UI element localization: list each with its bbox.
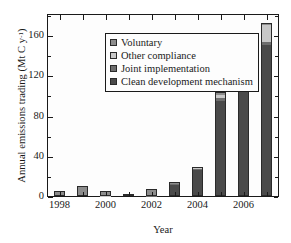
- x-tick-mark-top: [198, 15, 199, 20]
- legend-label: Joint implementation: [121, 63, 210, 74]
- x-tick-label: 2000: [86, 200, 126, 211]
- x-tick-mark-top: [83, 15, 84, 20]
- bar-2005[interactable]: [215, 92, 226, 196]
- y-tick-mark: [48, 157, 53, 158]
- x-tick-mark-top: [221, 15, 222, 20]
- y-tick-mark-right: [274, 197, 279, 198]
- legend-label: Voluntary: [121, 37, 162, 48]
- bar-segment: [261, 45, 272, 196]
- x-tick-mark: [152, 192, 153, 197]
- plot-area: VoluntaryOther complianceJoint implement…: [47, 14, 279, 197]
- x-tick-mark: [60, 192, 61, 197]
- bar-2007[interactable]: [261, 23, 272, 196]
- legend: VoluntaryOther complianceJoint implement…: [105, 33, 259, 92]
- x-tick-mark: [129, 192, 130, 197]
- x-tick-mark: [244, 192, 245, 197]
- y-tick-mark: [48, 117, 53, 118]
- y-tick-label: 80: [22, 110, 44, 121]
- bar-segment: [261, 25, 272, 42]
- y-tick-label: 120: [22, 70, 44, 81]
- legend-item[interactable]: Clean development mechanism: [110, 75, 253, 88]
- x-tick-mark: [198, 192, 199, 197]
- legend-item[interactable]: Other compliance: [110, 49, 253, 62]
- y-tick-mark: [48, 197, 53, 198]
- legend-swatch-icon: [110, 52, 117, 59]
- y-minor-tick-mark-right: [275, 16, 278, 17]
- x-tick-label: 2004: [178, 200, 218, 211]
- x-tick-mark-top: [106, 15, 107, 20]
- y-tick-label: 160: [22, 30, 44, 41]
- x-tick-mark-top: [60, 15, 61, 20]
- bar-segment: [215, 101, 226, 196]
- x-tick-mark: [175, 192, 176, 197]
- y-minor-tick-mark: [48, 16, 51, 17]
- y-tick-mark: [48, 36, 53, 37]
- legend-item[interactable]: Joint implementation: [110, 62, 253, 75]
- x-tick-mark: [83, 192, 84, 197]
- x-tick-mark: [267, 192, 268, 197]
- legend-swatch-icon: [110, 65, 117, 72]
- x-tick-mark-top: [267, 15, 268, 20]
- x-tick-label: 2006: [224, 200, 264, 211]
- y-minor-tick-mark-right: [275, 56, 278, 57]
- x-tick-mark-top: [244, 15, 245, 20]
- y-minor-tick-mark-right: [275, 96, 278, 97]
- y-tick-mark: [48, 76, 53, 77]
- x-tick-label: 1998: [40, 200, 80, 211]
- x-tick-mark: [106, 192, 107, 197]
- x-tick-mark: [221, 192, 222, 197]
- y-tick-mark-right: [274, 76, 279, 77]
- y-tick-mark-right: [274, 36, 279, 37]
- y-minor-tick-mark: [48, 177, 51, 178]
- y-minor-tick-mark-right: [275, 137, 278, 138]
- legend-swatch-icon: [110, 78, 117, 85]
- x-tick-label: 2002: [132, 200, 172, 211]
- y-tick-mark-right: [274, 117, 279, 118]
- legend-item[interactable]: Voluntary: [110, 36, 253, 49]
- chart-figure: Annual emissions trading (Mt C y-1) 0408…: [0, 0, 291, 243]
- y-axis-ticks: 04080120160: [22, 14, 44, 197]
- y-minor-tick-mark: [48, 96, 51, 97]
- y-minor-tick-mark: [48, 56, 51, 57]
- y-tick-label: 40: [22, 151, 44, 162]
- y-tick-mark-right: [274, 157, 279, 158]
- legend-label: Clean development mechanism: [121, 76, 253, 87]
- y-minor-tick-mark-right: [275, 177, 278, 178]
- legend-swatch-icon: [110, 39, 117, 46]
- x-tick-mark-top: [129, 15, 130, 20]
- legend-label: Other compliance: [121, 50, 196, 61]
- x-tick-mark-top: [152, 15, 153, 20]
- x-axis-label: Year: [47, 224, 279, 235]
- y-minor-tick-mark: [48, 137, 51, 138]
- x-tick-mark-top: [175, 15, 176, 20]
